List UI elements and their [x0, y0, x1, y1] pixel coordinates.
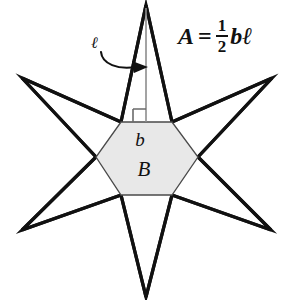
label-ell: ℓ	[91, 34, 98, 51]
formula-denominator: 2	[216, 38, 229, 55]
geometry-diagram: ℓ b B A = 1 2 bℓ	[0, 0, 284, 300]
formula-equals-sign: =	[198, 24, 212, 48]
label-small-b: b	[135, 129, 145, 150]
area-formula: A = 1 2 bℓ	[178, 17, 252, 55]
formula-rhs: bℓ	[230, 24, 252, 48]
formula-lhs: A	[178, 24, 194, 48]
formula-numerator: 1	[216, 17, 229, 34]
label-capital-b: B	[138, 157, 151, 181]
callout-arrow	[101, 52, 136, 68]
formula-fraction-one-half: 1 2	[216, 17, 229, 55]
